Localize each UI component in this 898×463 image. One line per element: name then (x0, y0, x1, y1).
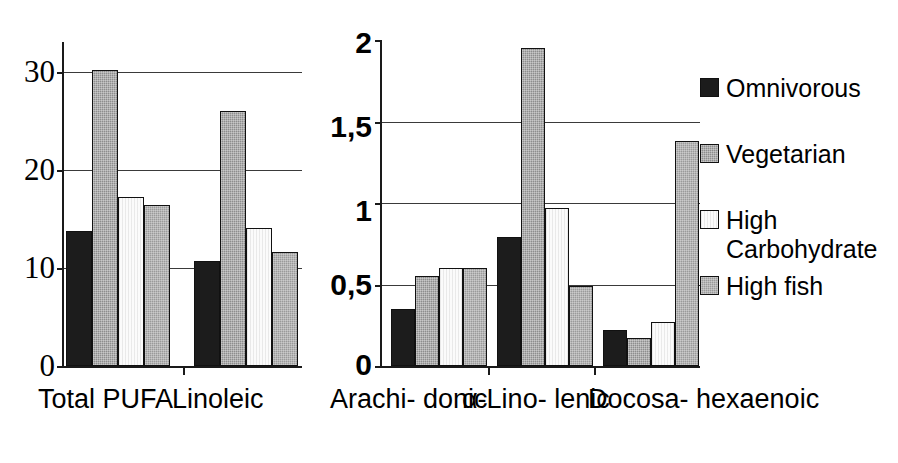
left-tick-0 (57, 366, 64, 368)
right-tick-2 (375, 40, 382, 42)
legend-item-vegetarian: Vegetarian (700, 140, 846, 169)
right-tick-1 (375, 203, 382, 205)
legend-swatch-omnivorous-icon (700, 78, 719, 97)
left-plot-area (62, 42, 302, 368)
xlabel-linoleic: Linoleic (172, 384, 302, 415)
legend-swatch-high-fish-icon (700, 276, 719, 295)
bar-alpha-linolenic-vegetarian (521, 48, 545, 366)
bar-group-total-pufa (64, 42, 183, 366)
legend-label-high-fish: High fish (726, 272, 823, 301)
right-ytick-label-1: 1 (320, 196, 372, 226)
left-ytick-label-0: 0 (10, 350, 55, 381)
bar-group-linoleic (183, 42, 302, 366)
xlabel-arachidonic: Arachi- donic (330, 384, 448, 415)
bar-total-pufa-omnivorous (66, 231, 92, 366)
xlabel-alpha-linolenic: α-Lino- lenic (462, 384, 580, 415)
left-chart-panel: 30 20 10 0 (0, 0, 320, 463)
left-bars-layer (64, 42, 302, 366)
left-tick-10 (57, 268, 64, 270)
right-tick-1-5 (375, 122, 382, 124)
right-category-separator-2 (594, 366, 596, 375)
legend-swatch-high-carbohydrate-icon (700, 210, 719, 229)
left-category-separator (183, 366, 185, 375)
left-ytick-label-10: 10 (10, 252, 55, 283)
xlabel-docosahexaenoic: Docosa- hexaenoic (588, 384, 778, 415)
right-bars-layer (382, 40, 700, 366)
right-ytick-label-2: 2 (320, 28, 372, 58)
legend-item-high-carbohydrate: High Carbohydrate (700, 206, 877, 264)
legend-label-vegetarian: Vegetarian (726, 140, 846, 169)
bar-group-docosahexaenoic (594, 40, 700, 366)
right-chart-panel: 2 1,5 1 0,5 0 (320, 0, 700, 463)
left-tick-20 (57, 170, 64, 172)
right-ytick-label-1-5: 1,5 (320, 112, 372, 142)
right-tick-0 (375, 366, 382, 368)
bar-arachidonic-vegetarian (415, 276, 439, 366)
right-ytick-label-0-5: 0,5 (320, 270, 372, 300)
bar-alpha-linolenic-high-fish (569, 286, 593, 366)
bar-arachidonic-high-fish (463, 268, 487, 366)
xlabel-total-pufa: Total PUFA (38, 384, 148, 415)
bar-docosahexaenoic-omnivorous (603, 330, 627, 366)
bar-linoleic-vegetarian (220, 111, 246, 366)
bar-docosahexaenoic-high-fish (675, 141, 699, 366)
bar-linoleic-omnivorous (194, 261, 220, 366)
bar-arachidonic-omnivorous (391, 309, 415, 366)
bar-alpha-linolenic-high-carbohydrate (545, 208, 569, 366)
legend-swatch-vegetarian-icon (700, 144, 719, 163)
legend-label-high-carbohydrate: High Carbohydrate (726, 206, 877, 264)
bar-total-pufa-high-carbohydrate (118, 197, 144, 366)
bar-alpha-linolenic-omnivorous (497, 237, 521, 366)
left-tick-30 (57, 72, 64, 74)
legend-item-high-fish: High fish (700, 272, 823, 301)
right-tick-0-5 (375, 285, 382, 287)
bar-group-alpha-linolenic (488, 40, 594, 366)
right-category-separator-1 (488, 366, 490, 375)
legend-item-omnivorous: Omnivorous (700, 74, 861, 103)
bar-docosahexaenoic-high-carbohydrate (651, 322, 675, 366)
left-ytick-label-20: 20 (10, 154, 55, 185)
right-ytick-label-0: 0 (320, 350, 372, 380)
chart-figure: 30 20 10 0 (0, 0, 898, 463)
legend-label-omnivorous: Omnivorous (726, 74, 861, 103)
bar-group-arachidonic (382, 40, 488, 366)
bar-total-pufa-high-fish (144, 205, 170, 366)
bar-linoleic-high-fish (272, 252, 298, 366)
bar-total-pufa-vegetarian (92, 70, 118, 366)
bar-docosahexaenoic-vegetarian (627, 338, 651, 366)
right-plot-area (380, 40, 700, 368)
bar-arachidonic-high-carbohydrate (439, 268, 463, 366)
bar-linoleic-high-carbohydrate (246, 228, 272, 366)
left-ytick-label-30: 30 (10, 56, 55, 87)
